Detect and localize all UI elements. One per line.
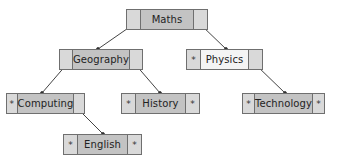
node-technology[interactable]: * Technology * — [242, 93, 325, 114]
node-label: Maths — [141, 10, 193, 29]
node-left-cell — [60, 50, 73, 69]
node-right-cell — [193, 10, 207, 29]
node-label: Physics — [201, 50, 248, 69]
node-label: Technology — [255, 94, 312, 113]
node-label: Geography — [73, 50, 129, 69]
node-right-cell — [73, 94, 84, 113]
node-left-cell: * — [64, 135, 78, 154]
node-right-cell — [129, 50, 142, 69]
node-right-cell: * — [185, 94, 199, 113]
node-geography[interactable]: Geography — [59, 49, 143, 70]
node-label: English — [78, 135, 127, 154]
node-physics[interactable]: * Physics — [186, 49, 263, 70]
node-left-cell: * — [243, 94, 255, 113]
node-left-cell: * — [122, 94, 136, 113]
node-right-cell — [248, 50, 262, 69]
node-english[interactable]: * English * — [63, 134, 142, 155]
node-label: Computing — [18, 94, 74, 113]
node-maths[interactable]: Maths — [126, 9, 208, 30]
node-left-cell: * — [7, 94, 18, 113]
node-label: History — [136, 94, 185, 113]
node-computing[interactable]: * Computing — [6, 93, 85, 114]
node-history[interactable]: * History * — [121, 93, 200, 114]
node-right-cell: * — [127, 135, 141, 154]
node-right-cell: * — [312, 94, 324, 113]
node-left-cell — [127, 10, 141, 29]
node-left-cell: * — [187, 50, 201, 69]
